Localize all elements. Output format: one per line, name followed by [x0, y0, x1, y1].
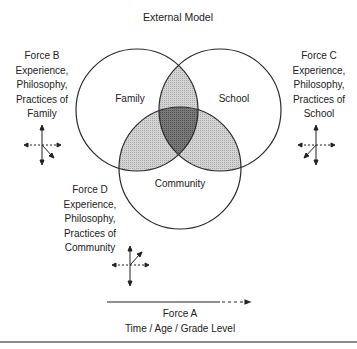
- force-d-line: Philosophy,: [60, 212, 120, 227]
- force-b-title: Force B: [8, 49, 76, 64]
- force-c-line: Experience,: [284, 64, 354, 79]
- force-b-line: Practices of: [8, 93, 76, 108]
- force-a-subtitle: Time / Age / Grade Level: [100, 322, 260, 337]
- force-c-line: School: [284, 107, 354, 122]
- force-b-line: Experience,: [8, 64, 76, 79]
- bottom-divider: [0, 341, 357, 343]
- force-d-line: Practices of: [60, 227, 120, 242]
- force-a-title: Force A: [100, 307, 260, 322]
- force-a-time-arrow: [107, 300, 250, 304]
- force-b-label: Force B Experience, Philosophy, Practice…: [8, 49, 76, 122]
- force-d-line: Experience,: [60, 198, 120, 213]
- force-b-line: Family: [8, 107, 76, 122]
- force-d-label: Force D Experience, Philosophy, Practice…: [60, 183, 120, 256]
- force-c-title: Force C: [284, 49, 354, 64]
- force-a-label: Force A Time / Age / Grade Level: [100, 307, 260, 336]
- force-d-title: Force D: [60, 183, 120, 198]
- force-b-axes-icon: [24, 125, 61, 165]
- force-c-label: Force C Experience, Philosophy, Practice…: [284, 49, 354, 122]
- force-c-line: Philosophy,: [284, 78, 354, 93]
- community-label: Community: [145, 177, 215, 192]
- force-d-line: Community: [60, 241, 120, 256]
- force-c-line: Practices of: [284, 93, 354, 108]
- school-label: School: [204, 92, 264, 107]
- force-b-line: Philosophy,: [8, 78, 76, 93]
- family-label: Family: [100, 92, 160, 107]
- force-c-axes-icon: [298, 125, 335, 165]
